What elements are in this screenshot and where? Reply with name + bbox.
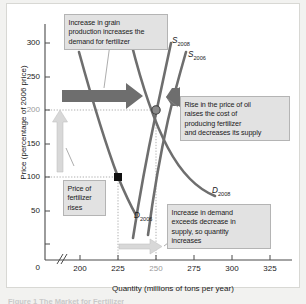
quantity-increase-note-line-3: supply, so quantity [172, 227, 267, 237]
y-tick-50: 50 [10, 206, 40, 215]
curve-label-s2008: S2008 [172, 36, 190, 47]
y-tick-300: 300 [10, 38, 40, 47]
x-ticks [80, 255, 270, 260]
quantity-increase-note: Increase in demand exceeds decrease in s… [167, 204, 271, 249]
demand-shift-arrow [62, 83, 143, 109]
price-rise-note-line-1: Price of [68, 184, 102, 194]
price-rise-arrow [53, 110, 68, 172]
callout-leaders [66, 44, 178, 246]
leader-price-note [66, 148, 74, 166]
figure-container: 300 250 200 150 100 50 0 200 225 250 275… [0, 0, 306, 304]
supply-shift-note-line-1: Rise in the price of oil [185, 100, 286, 110]
x-tick-250: 250 [144, 264, 168, 273]
x-tick-325: 325 [258, 264, 282, 273]
leader-demand-note [104, 44, 110, 88]
supply-shift-note-line-4: and decreases its supply [185, 128, 286, 138]
figure-caption: Figure 1 The Market for Fertilizer [8, 297, 124, 304]
quantity-increase-note-line-4: increases [172, 236, 267, 246]
supply-shift-note-line-3: producing fertilizer [185, 119, 286, 129]
supply-shift-note: Rise in the price of oil raises the cost… [180, 96, 290, 141]
curve-label-d2006: D2006 [134, 211, 152, 222]
curve-label-d2008: D2008 [212, 186, 230, 197]
supply-shift-note-line-2: raises the cost of [185, 109, 286, 119]
y-ticks [45, 43, 50, 244]
demand-shift-note-line-3: demand for fertilizer [69, 37, 164, 47]
y-tick-0: 0 [10, 263, 40, 272]
price-rise-note-line-2: fertilizer [68, 193, 102, 203]
new-equilibrium-marker [152, 106, 160, 114]
supply-shift-arrow [166, 87, 180, 107]
x-tick-225: 225 [106, 264, 130, 273]
price-rise-note: Price of fertilizer rises [63, 180, 106, 216]
x-tick-275: 275 [182, 264, 206, 273]
initial-equilibrium-marker [114, 173, 122, 181]
x-tick-200: 200 [68, 264, 92, 273]
quantity-increase-arrow [119, 239, 162, 254]
quantity-increase-note-line-1: Increase in demand [172, 208, 267, 218]
curve-label-s2006: S2006 [188, 50, 206, 61]
axis-break-mark [57, 254, 67, 264]
price-rise-note-line-3: rises [68, 203, 102, 213]
x-axis-label: Quantity (millions of tons per year) [112, 284, 234, 293]
quantity-increase-note-line-2: exceeds decrease in [172, 217, 267, 227]
demand-shift-note-line-1: Increase in grain [69, 18, 164, 28]
demand-shift-note-line-2: production increases the [69, 27, 164, 37]
demand-shift-note: Increase in grain production increases t… [64, 14, 168, 50]
y-axis-label: Price (percentage of 2006 price) [19, 48, 28, 198]
x-tick-300: 300 [220, 264, 244, 273]
